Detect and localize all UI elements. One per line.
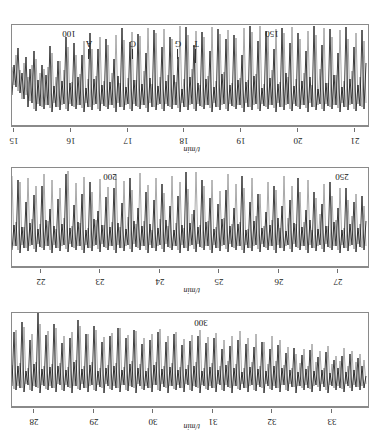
tick-label-33: 33 <box>328 304 337 427</box>
trace-group-top <box>11 312 368 406</box>
tick-label-29: 29 <box>90 304 99 427</box>
plot-frame-bottom: 150 100 T G C A <box>11 24 369 126</box>
tick-label-24: 24 <box>156 160 165 287</box>
base-position-marker-300: 300 <box>194 318 208 328</box>
tick-label-25: 25 <box>215 160 224 287</box>
axis-title-middle: t/min <box>184 286 200 295</box>
axis-line-top <box>11 407 369 408</box>
tick-label-19: 19 <box>237 5 246 146</box>
tick-label-28: 28 <box>30 304 39 427</box>
tick-label-23: 23 <box>96 160 105 287</box>
axis-title-bottom: t/min <box>184 145 200 154</box>
tick-label-20: 20 <box>294 5 303 146</box>
tick-label-26: 26 <box>275 160 284 287</box>
panel-bottom: t/min 150 100 T G C A <box>0 0 383 150</box>
tick-label-15: 15 <box>10 5 19 146</box>
tick-label-27: 27 <box>334 160 343 287</box>
axis-line-bottom <box>11 126 369 127</box>
tick-label-17: 17 <box>124 5 133 146</box>
plot-frame-middle: 250 200 <box>11 167 369 267</box>
base-position-marker-200: 200 <box>103 172 117 182</box>
base-call-tick-T <box>195 49 196 63</box>
base-call-label-A: A <box>86 39 93 49</box>
electropherogram-figure: t/min 300 28 29 30 31 <box>0 0 383 435</box>
tick-label-18: 18 <box>180 5 189 146</box>
trace-group-bottom <box>11 24 368 125</box>
panel-top: t/min 300 28 29 30 31 <box>0 299 383 435</box>
panel-middle: t/min 250 200 22 23 24 <box>0 155 383 295</box>
base-call-tick-A <box>88 49 89 59</box>
base-call-tick-G <box>177 49 178 59</box>
plot-frame-top: 300 <box>11 312 369 407</box>
tick-label-21: 21 <box>351 5 360 146</box>
tick-label-22: 22 <box>37 160 46 287</box>
tick-label-16: 16 <box>67 5 76 146</box>
axis-line-middle <box>11 267 369 268</box>
axis-title-top: t/min <box>184 422 200 431</box>
trace-group-middle <box>11 167 368 266</box>
tick-label-32: 32 <box>268 304 277 427</box>
base-position-marker-150: 150 <box>265 29 279 39</box>
base-call-label-T: T <box>193 39 199 49</box>
tick-label-31: 31 <box>209 304 218 427</box>
tick-axis-top <box>0 407 383 417</box>
tick-label-30: 30 <box>149 304 158 427</box>
